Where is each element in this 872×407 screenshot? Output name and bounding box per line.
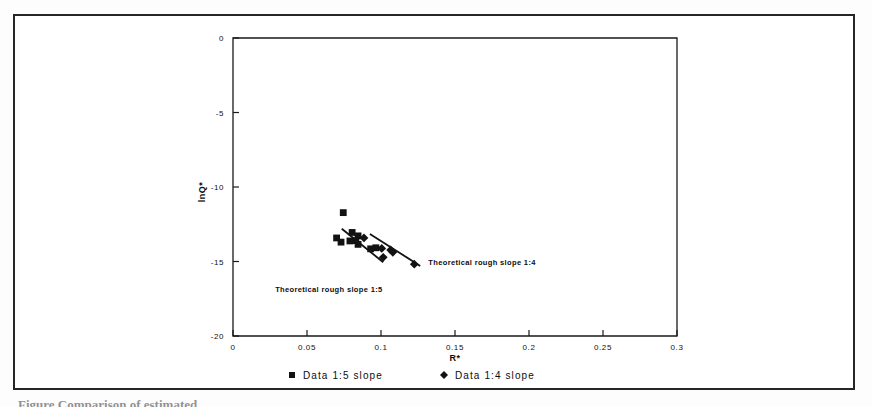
x-tick-label: 0 xyxy=(230,343,235,352)
y-tick-label: 0 xyxy=(219,34,224,43)
x-tick-label: 0.3 xyxy=(671,343,684,352)
y-tick-label: -5 xyxy=(216,109,224,118)
data-point-square xyxy=(355,241,362,248)
y-tick-label: -20 xyxy=(211,332,224,341)
chart-annotations: Theoretical rough slope 1:5Theoretical r… xyxy=(275,258,536,294)
x-axis-title: R* xyxy=(449,353,460,363)
y-tick-label: -10 xyxy=(211,183,224,192)
legend-marker-diamond xyxy=(440,371,448,379)
legend-item-label: Data 1:5 slope xyxy=(303,370,383,381)
x-axis-ticks xyxy=(233,330,677,336)
x-tick-label: 0.05 xyxy=(298,343,316,352)
data-point-square xyxy=(347,238,354,245)
data-point-square xyxy=(340,209,347,216)
x-tick-label: 0.25 xyxy=(594,343,612,352)
annotation-text: Theoretical rough slope 1:5 xyxy=(275,285,382,294)
figure-root: 00.050.10.150.20.250.3 0-5-10-15-20 Theo… xyxy=(0,0,872,407)
x-tick-label: 0.1 xyxy=(375,343,388,352)
data-series-1-5-slope xyxy=(333,209,379,252)
annotation-text: Theoretical rough slope 1:4 xyxy=(428,258,536,267)
x-axis-tick-labels: 00.050.10.150.20.250.3 xyxy=(230,343,683,352)
legend-marker-square xyxy=(289,372,295,378)
chart-legend: Data 1:5 slopeData 1:4 slope xyxy=(289,370,535,381)
figure-caption-fragment: Figure Comparison of estimated xyxy=(18,398,718,407)
legend-item-label: Data 1:4 slope xyxy=(455,370,535,381)
y-axis-title: lnQ* xyxy=(197,182,207,203)
data-point-square xyxy=(338,239,345,246)
scatter-chart: 00.050.10.150.20.250.3 0-5-10-15-20 Theo… xyxy=(0,0,872,407)
y-axis-ticks xyxy=(233,38,239,336)
x-tick-label: 0.2 xyxy=(523,343,536,352)
y-axis-tick-labels: 0-5-10-15-20 xyxy=(211,34,224,341)
data-point-square xyxy=(349,229,356,236)
y-tick-label: -15 xyxy=(211,258,224,267)
x-tick-label: 0.15 xyxy=(446,343,464,352)
